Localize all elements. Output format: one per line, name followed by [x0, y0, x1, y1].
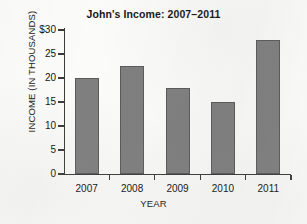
x-axis-title: YEAR	[0, 198, 307, 209]
bar-2008	[120, 66, 144, 174]
y-axis-tick-label: 5	[50, 145, 56, 155]
x-axis-tick-label: 2008	[109, 183, 155, 194]
x-axis-tick-label: 2010	[200, 183, 246, 194]
bar-2009	[166, 88, 190, 174]
y-axis-tick-label: 20	[45, 73, 56, 83]
x-axis-tick	[154, 175, 155, 180]
y-axis-tick	[58, 173, 64, 174]
y-axis-tick-label: 25	[45, 49, 56, 59]
x-axis-tick	[109, 175, 110, 180]
y-axis-tick	[58, 77, 64, 78]
y-axis-tick	[58, 125, 64, 126]
x-axis-line	[64, 174, 291, 175]
bar-2010	[211, 102, 235, 174]
y-axis-tick-label: $30	[39, 25, 56, 35]
x-axis-tick-label: 2009	[155, 183, 201, 194]
y-axis-tick-label: 15	[45, 97, 56, 107]
y-axis-tick	[58, 29, 64, 30]
y-axis-tick-label: 10	[45, 121, 56, 131]
y-axis-tick	[58, 149, 64, 150]
y-axis-tick-label: 0	[50, 169, 56, 179]
y-axis-tick	[58, 53, 64, 54]
bar-chart-screenshot: John's Income: 2007–2011 INCOME (IN THOU…	[0, 0, 307, 224]
plot-area: 0510152025$30 20072008200920102011	[0, 0, 307, 224]
bar-2007	[75, 78, 99, 174]
x-axis-tick	[200, 175, 201, 180]
bar-2011	[256, 40, 280, 174]
x-axis-tick-label: 2011	[245, 183, 291, 194]
y-axis-tick	[58, 101, 64, 102]
y-axis-line	[64, 28, 65, 175]
x-axis-tick	[290, 175, 291, 180]
x-axis-tick-label: 2007	[64, 183, 110, 194]
x-axis-tick	[245, 175, 246, 180]
